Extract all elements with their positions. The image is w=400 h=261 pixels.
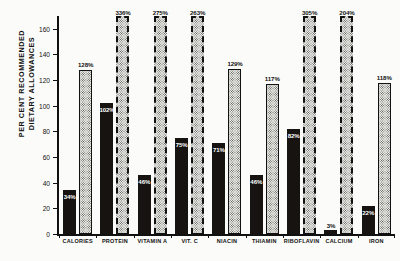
- plot-area: 020406080100120140160 34%128%102%336%46%…: [57, 16, 395, 236]
- y-tick-mark: [53, 183, 58, 184]
- y-tick-mark: [53, 208, 58, 209]
- bar-stipple: 305%: [303, 16, 316, 234]
- bar-solid: 3%: [324, 230, 337, 234]
- bar-solid: 46%: [138, 175, 151, 234]
- bar-stipple: 129%: [228, 69, 241, 234]
- x-category-label-vitamin-a: VITAMIN A: [134, 238, 171, 244]
- bar-group: 46%275%: [134, 16, 171, 234]
- bar-value-label: 34%: [64, 193, 76, 200]
- y-tick-label: 40: [43, 179, 50, 186]
- bar-stipple: 118%: [378, 83, 391, 234]
- bar-value-label: 102%: [99, 106, 114, 113]
- y-axis-title: PER CENT RECOMMENDED DIETARY ALLOWANCES: [17, 4, 36, 164]
- bar-value-label: 82%: [288, 132, 300, 139]
- y-tick-mark: [53, 106, 58, 107]
- bar-value-label: 3%: [327, 222, 336, 229]
- bar-group: 3%204%: [320, 16, 357, 234]
- y-tick-label: 0: [46, 231, 50, 238]
- x-axis-line: [57, 234, 395, 236]
- bar-value-label: 46%: [250, 178, 262, 185]
- x-axis-category-labels: CALORIESPROTEINVITAMIN AVIT. CNIACINTHIA…: [59, 238, 395, 244]
- bar-stipple: 204%: [340, 16, 353, 234]
- bar-group: 82%305%: [283, 16, 320, 234]
- bar-value-label: 275%: [153, 9, 168, 16]
- y-tick-label: 160: [39, 25, 50, 32]
- x-category-label-iron: IRON: [358, 238, 395, 244]
- x-category-label-calories: CALORIES: [59, 238, 96, 244]
- nutrition-bar-chart: PER CENT RECOMMENDED DIETARY ALLOWANCES …: [0, 0, 400, 261]
- y-tick-mark: [53, 234, 58, 235]
- bar-value-label: 46%: [138, 178, 150, 185]
- y-tick-mark: [53, 131, 58, 132]
- bar-solid: 102%: [100, 103, 113, 234]
- bar-stipple: 128%: [79, 70, 92, 234]
- bar-value-label: 336%: [115, 9, 130, 16]
- bar-stipple: 263%: [191, 16, 204, 234]
- bar-group: 75%263%: [171, 16, 208, 234]
- bar-group: 22%118%: [358, 16, 395, 234]
- bar-group: 71%129%: [208, 16, 245, 234]
- bar-value-label: 263%: [190, 9, 205, 16]
- bar-stipple: 336%: [116, 16, 129, 234]
- x-category-label-niacin: NIACIN: [208, 238, 245, 244]
- y-tick-label: 120: [39, 77, 50, 84]
- bar-solid: 46%: [250, 175, 263, 234]
- bar-value-label: 71%: [213, 146, 225, 153]
- x-category-label-protein: PROTEIN: [96, 238, 133, 244]
- bar-stipple: 117%: [266, 84, 279, 234]
- bar-solid: 75%: [175, 138, 188, 234]
- bar-value-label: 75%: [176, 141, 188, 148]
- x-category-label-calcium: CALCIUM: [320, 238, 357, 244]
- y-tick-mark: [53, 54, 58, 55]
- bar-solid: 34%: [63, 190, 76, 234]
- y-tick-mark: [53, 157, 58, 158]
- x-category-label-thiamin: THIAMIN: [246, 238, 283, 244]
- bar-group: 34%128%: [59, 16, 96, 234]
- bar-value-label: 305%: [302, 9, 317, 16]
- bar-value-label: 22%: [362, 209, 374, 216]
- y-tick-mark: [53, 80, 58, 81]
- bar-value-label: 129%: [227, 60, 242, 67]
- x-category-label-riboflavin: RIBOFLAVIN: [283, 238, 320, 244]
- bar-group: 46%117%: [246, 16, 283, 234]
- y-tick-label: 100: [39, 102, 50, 109]
- bar-solid: 71%: [212, 143, 225, 234]
- bar-value-label: 118%: [377, 74, 392, 81]
- bar-series-container: 34%128%102%336%46%275%75%263%71%129%46%1…: [59, 16, 395, 234]
- bar-value-label: 117%: [265, 75, 280, 82]
- y-tick-label: 20: [43, 205, 50, 212]
- bar-value-label: 128%: [78, 61, 93, 68]
- bar-stipple: 275%: [154, 16, 167, 234]
- y-tick-mark: [53, 29, 58, 30]
- bar-solid: 22%: [362, 206, 375, 234]
- bar-solid: 82%: [287, 129, 300, 234]
- bar-value-label: 204%: [339, 9, 354, 16]
- x-category-label-vit-c: VIT. C: [171, 238, 208, 244]
- y-tick-label: 140: [39, 51, 50, 58]
- y-tick-label: 60: [43, 154, 50, 161]
- bar-group: 102%336%: [96, 16, 133, 234]
- y-tick-label: 80: [43, 128, 50, 135]
